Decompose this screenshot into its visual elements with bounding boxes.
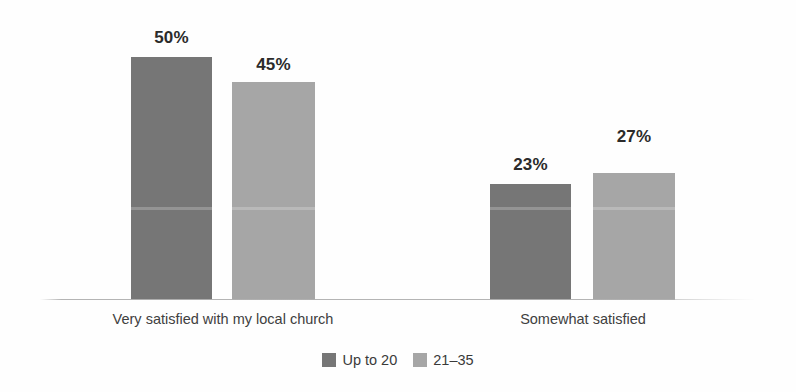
legend-item-up-to-20[interactable]: Up to 20 (322, 352, 397, 368)
legend-swatch-icon (413, 353, 427, 367)
bar-chart: 50% 45% 23% 27% Very satisfied with my l… (0, 0, 796, 392)
bar-fill (593, 173, 675, 300)
bar-fill (131, 57, 212, 300)
bar-fill (232, 82, 315, 300)
legend-swatch-icon (322, 353, 336, 367)
bar-value-label-group2-series1: 23% (490, 155, 571, 175)
bar-fill (490, 184, 571, 300)
category-label-somewhat-satisfied: Somewhat satisfied (483, 311, 683, 327)
bar-group2-series1 (490, 184, 571, 300)
x-axis-baseline (40, 299, 756, 300)
plot-area: 50% 45% 23% 27% (0, 0, 796, 300)
bar-value-label-group1-series2: 45% (232, 55, 315, 75)
category-label-very-satisfied: Very satisfied with my local church (73, 311, 373, 327)
bar-group2-series2 (593, 173, 675, 300)
legend: Up to 20 21–35 (0, 352, 796, 368)
legend-label: Up to 20 (342, 352, 397, 368)
bar-value-label-group1-series1: 50% (131, 28, 212, 48)
legend-item-21-35[interactable]: 21–35 (413, 352, 473, 368)
bar-group1-series1 (131, 57, 212, 300)
bar-value-label-group2-series2: 27% (593, 127, 675, 147)
bar-group1-series2 (232, 82, 315, 300)
legend-label: 21–35 (433, 352, 473, 368)
